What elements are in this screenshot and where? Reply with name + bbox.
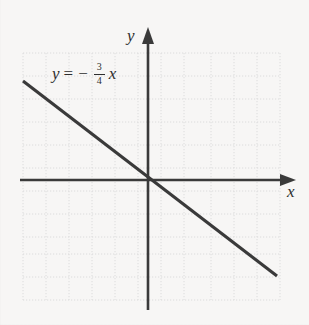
equation-minus-sign: −: [78, 64, 88, 84]
coordinate-plane-svg: [0, 0, 309, 325]
graph-figure: y x y = − 3 4 x: [0, 0, 309, 325]
equation-equals-sign: =: [64, 64, 74, 84]
y-axis-label: y: [127, 27, 135, 44]
equation-fraction: 3 4: [94, 62, 105, 86]
fraction-denominator: 4: [95, 76, 104, 87]
equation-annotation: y = − 3 4 x: [52, 62, 120, 86]
plotted-line-series: [23, 81, 277, 276]
equation-lhs: y: [52, 64, 60, 84]
grid-lines: [23, 53, 280, 300]
equation-variable: x: [109, 64, 117, 84]
x-axis-label: x: [287, 183, 295, 200]
y-axis-arrowhead-icon: [142, 27, 154, 44]
fraction-numerator: 3: [95, 62, 104, 73]
